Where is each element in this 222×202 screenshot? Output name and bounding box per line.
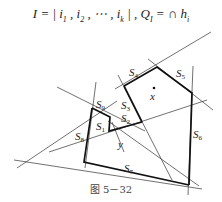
polyhedra-diagram: S4 S5 x S9 S3 S2 S1 S8 y S6 S7 [0,0,222,202]
region-labels: S4 S5 x S9 S3 S2 S1 S8 y S6 S7 [75,66,203,176]
line-left-vertical [85,82,96,168]
label-s1: S1 [96,120,106,134]
figure-caption: 图 5－32 [0,181,222,196]
label-s8: S8 [75,130,85,144]
s3-edge [124,86,142,122]
label-s2: S2 [121,112,131,126]
line-s4-extended [115,32,211,89]
line-s1-diag [108,121,199,186]
thin-lines [14,32,213,195]
label-x: x [149,90,155,102]
label-y: y [117,138,123,150]
label-s5: S5 [176,67,186,81]
label-s6: S6 [193,128,203,142]
outer-region-top [124,67,192,185]
label-s9: S9 [96,98,106,112]
point-x [153,87,156,90]
label-s3: S3 [121,99,131,113]
label-s4: S4 [129,66,139,80]
label-s7: S7 [124,162,134,176]
